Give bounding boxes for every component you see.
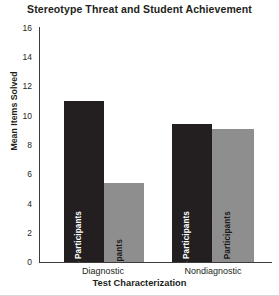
- bar-diagnostic-black[interactable]: BlackParticipants: [104, 183, 144, 262]
- y-axis-title: Mean Items Solved: [9, 61, 19, 161]
- bar-label-diagnostic-white: White Participants: [75, 211, 84, 262]
- bar-chart-figure: Stereotype Threat and Student Achievemen…: [0, 0, 279, 296]
- x-axis-title: Test Characterization: [0, 278, 279, 288]
- x-category-label-nondiagnostic: Nondiagnostic: [163, 266, 263, 276]
- bar-nondiagnostic-black[interactable]: Black Participants: [212, 129, 254, 262]
- x-axis-line: [39, 262, 272, 263]
- bar-label-diagnostic-black: BlackParticipants: [107, 209, 124, 262]
- y-tick-label-6: 6: [10, 170, 32, 179]
- chart-title: Stereotype Threat and Student Achievemen…: [0, 3, 279, 15]
- x-category-label-diagnostic: Diagnostic: [58, 266, 148, 276]
- plot-area: White Participants BlackParticipants Whi…: [40, 28, 272, 262]
- bar-label-line2: Participants: [114, 239, 123, 262]
- bar-nondiagnostic-white[interactable]: White Participants: [172, 124, 212, 262]
- bar-label-nondiagnostic-black: Black Participants: [224, 212, 233, 262]
- y-tick-label-2: 2: [10, 229, 32, 238]
- bar-diagnostic-white[interactable]: White Participants: [64, 101, 104, 262]
- y-tick-label-0: 0: [10, 258, 32, 267]
- y-tick-label-4: 4: [10, 200, 32, 209]
- y-tick-label-16: 16: [10, 24, 32, 33]
- bar-label-nondiagnostic-white: White Participants: [183, 211, 192, 262]
